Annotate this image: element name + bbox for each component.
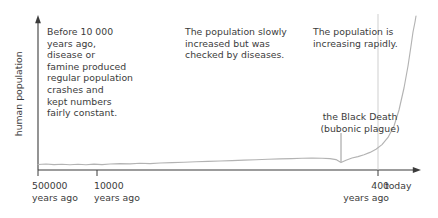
annotation-slow-increase: The population slowly increased but was … xyxy=(185,26,313,61)
annotation-early-population: Before 10 000 years ago, disease or fami… xyxy=(47,26,167,119)
x-axis-tick-label-today: today xyxy=(385,180,431,192)
annotation-black-death: the Black Death (bubonic plague) xyxy=(300,111,420,134)
y-axis xyxy=(35,15,41,170)
x-axis-tick-label-10000: 10000 years ago xyxy=(94,180,160,203)
x-axis-arrowhead xyxy=(413,167,421,173)
x-axis-tick-label-500000: 500000 years ago xyxy=(32,180,98,203)
x-axis-tick-label-400: 400 years ago xyxy=(337,180,389,203)
population-growth-chart: human population 500000 years ago 10000 … xyxy=(0,0,438,218)
annotation-rapid-increase: The population is increasing rapidly. xyxy=(313,26,425,49)
y-axis-label: human population xyxy=(13,44,25,144)
y-axis-arrowhead xyxy=(35,15,41,23)
x-axis xyxy=(38,167,421,173)
